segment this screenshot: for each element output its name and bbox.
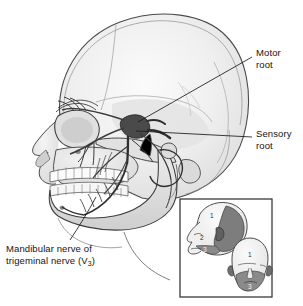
inset-lateral-region-3: 3	[203, 246, 207, 253]
mandibular-label-line2-post: )	[92, 255, 95, 266]
sensory-root-label-line2: root	[256, 140, 273, 151]
orbital-cavity-shade	[61, 117, 93, 143]
mandibular-division-v3-trunk	[127, 136, 128, 164]
motor-root-label-line1: Motor	[256, 47, 281, 58]
inset-lateral-region-2: 2	[200, 234, 204, 241]
mandibular-nerve-label: Mandibular nerve oftrigeminal nerve (V3)	[6, 243, 95, 269]
sensory-root-label-line1: Sensory	[256, 128, 292, 139]
mandibular-label-line1: Mandibular nerve of	[6, 243, 92, 254]
motor-root-label: Motorroot	[256, 47, 281, 70]
dermatome-inset-group: 1 2 3 1 3	[180, 199, 272, 297]
sensory-root-label: Sensoryroot	[256, 128, 292, 151]
mandibular-label-line2-pre: trigeminal nerve (V	[6, 255, 88, 266]
inset-lateral-ear	[216, 227, 224, 240]
inset-frontal-region-1: 1	[248, 251, 252, 258]
inset-lateral-region-1: 1	[210, 212, 214, 219]
motor-root-label-line2: root	[256, 59, 273, 70]
inset-frontal-region-3: 3	[248, 283, 252, 290]
